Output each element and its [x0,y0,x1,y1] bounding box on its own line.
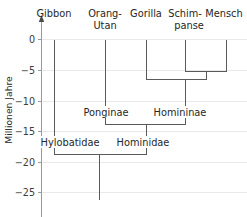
y-tick-label-0: 0 [29,34,35,45]
y-tick-label-m15: −15 [15,126,35,137]
taxon-labels: Gibbon Orang- Utan Gorilla Schim- panse … [37,8,243,31]
clade-label-hominidae: Hominidae [117,137,170,148]
taxon-label-gorilla: Gorilla [130,8,162,19]
tree-branches [55,40,227,200]
taxon-label-orangutan-line2: Utan [93,20,116,31]
taxon-label-orangutan-line1: Orang- [88,8,122,19]
clade-label-homininae: Homininae [154,107,207,118]
y-tick-label-m10: −10 [15,96,35,107]
gridlines [41,40,247,193]
clade-label-ponginae: Ponginae [84,107,129,118]
taxon-label-mensch: Mensch [205,8,242,19]
cladogram-figure: 0 −5 −10 −15 −20 −25 Millionen Jahre [0,0,247,217]
y-tick-label-m5: −5 [21,65,35,76]
taxon-label-schimpanse-line1: Schim- [168,8,202,19]
taxon-label-gibbon: Gibbon [37,8,72,19]
taxon-label-schimpanse-line2: panse [174,20,204,31]
clade-label-hylobatidae: Hylobatidae [41,137,100,148]
y-axis-title: Millionen Jahre [3,76,14,144]
y-tick-labels: 0 −5 −10 −15 −20 −25 [15,34,35,198]
cladogram-canvas: 0 −5 −10 −15 −20 −25 Millionen Jahre [0,0,247,217]
clade-labels: Ponginae Homininae Hylobatidae Hominidae [41,107,207,148]
y-tick-label-m25: −25 [15,187,35,198]
y-tick-label-m20: −20 [15,157,35,168]
y-axis [38,15,44,217]
